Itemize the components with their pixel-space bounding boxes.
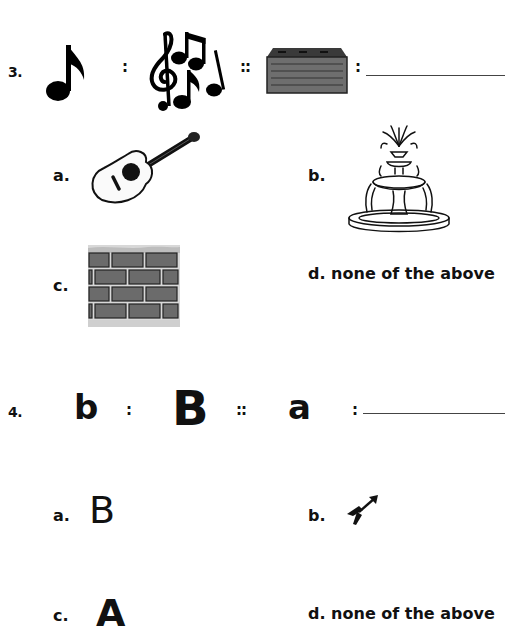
option-a-letter[interactable]: B (89, 491, 115, 529)
question-number: 3. (8, 64, 22, 80)
brick-icon (263, 47, 348, 95)
analogy-term-1: b (74, 390, 98, 424)
option-c-letter[interactable]: A (96, 594, 125, 630)
guitar-icon[interactable] (88, 130, 203, 210)
fountain-icon[interactable] (343, 124, 453, 236)
analogy-term-2: B (172, 384, 209, 432)
answer-blank[interactable] (363, 413, 505, 414)
option-c-label: c. (53, 606, 69, 625)
option-d-text: none of the above (331, 264, 495, 283)
option-d[interactable]: d. none of the above (308, 264, 495, 283)
option-d-label: d. (308, 604, 326, 623)
option-a-label: a. (53, 506, 70, 525)
analogy-double-separator: :: (240, 60, 250, 75)
option-d-text: none of the above (331, 604, 495, 623)
analogy-separator: : (355, 60, 361, 75)
option-c-label: c. (53, 276, 69, 295)
option-a-label: a. (53, 166, 70, 185)
answer-blank[interactable] (366, 75, 505, 76)
arrow-icon[interactable] (345, 494, 379, 526)
music-notes-with-treble-clef-icon (143, 28, 228, 116)
option-d-label: d. (308, 264, 326, 283)
analogy-double-separator: :: (236, 403, 246, 418)
option-b-label: b. (308, 166, 326, 185)
question-number: 4. (8, 404, 22, 420)
brick-wall-icon[interactable] (88, 245, 180, 327)
eighth-note-icon (44, 42, 92, 102)
analogy-separator: : (126, 403, 132, 418)
analogy-term-3: a (288, 390, 311, 424)
option-b-label: b. (308, 506, 326, 525)
analogy-separator: : (352, 403, 358, 418)
analogy-separator: : (122, 60, 128, 75)
option-d[interactable]: d. none of the above (308, 604, 495, 623)
